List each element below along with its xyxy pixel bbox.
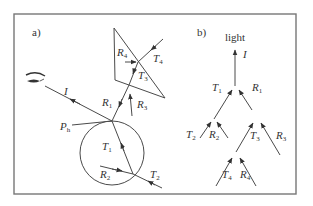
tree-label-R3: R3 xyxy=(275,129,287,143)
label-R4: R4 xyxy=(116,46,128,60)
sphere-circle xyxy=(80,121,144,185)
tree-label-I: I xyxy=(242,48,248,60)
ray-R3 xyxy=(130,94,132,116)
tree-label-R1: R1 xyxy=(251,81,263,95)
label-T1: T1 xyxy=(102,140,112,154)
label-T3: T3 xyxy=(138,69,148,83)
tree-label-T2: T2 xyxy=(186,128,196,142)
label-T4: T4 xyxy=(153,52,163,66)
label-I: I xyxy=(63,85,69,97)
tree-label-R2: R2 xyxy=(208,128,220,142)
panel-b: b) light I T1 R1 T2 R2 T3 R3 T4 R4 xyxy=(186,26,287,186)
panel-b-label: b) xyxy=(197,26,207,39)
ray-tracing-diagram: a) I Ph T1 R2 T2 R1 xyxy=(0,0,313,206)
label-R1: R1 xyxy=(101,96,113,110)
figure-frame xyxy=(14,14,296,194)
tree-label-R4: R4 xyxy=(239,168,251,182)
label-R2: R2 xyxy=(99,168,111,182)
label-R3: R3 xyxy=(136,98,148,112)
panel-a-label: a) xyxy=(32,26,41,39)
label-T2: T2 xyxy=(150,168,160,182)
eye-icon xyxy=(26,73,45,83)
tree-label-T3: T3 xyxy=(250,129,260,143)
panel-a: a) I Ph T1 R2 T2 R1 xyxy=(26,26,165,188)
label-Ph: Ph xyxy=(59,120,71,134)
label-light: light xyxy=(225,31,245,43)
tree-label-T1: T1 xyxy=(212,81,222,95)
tree-edge-R1 xyxy=(239,90,252,110)
tree-edge-T1 xyxy=(214,90,232,119)
ph-pointer xyxy=(72,121,112,125)
tree-label-T4: T4 xyxy=(222,168,232,182)
